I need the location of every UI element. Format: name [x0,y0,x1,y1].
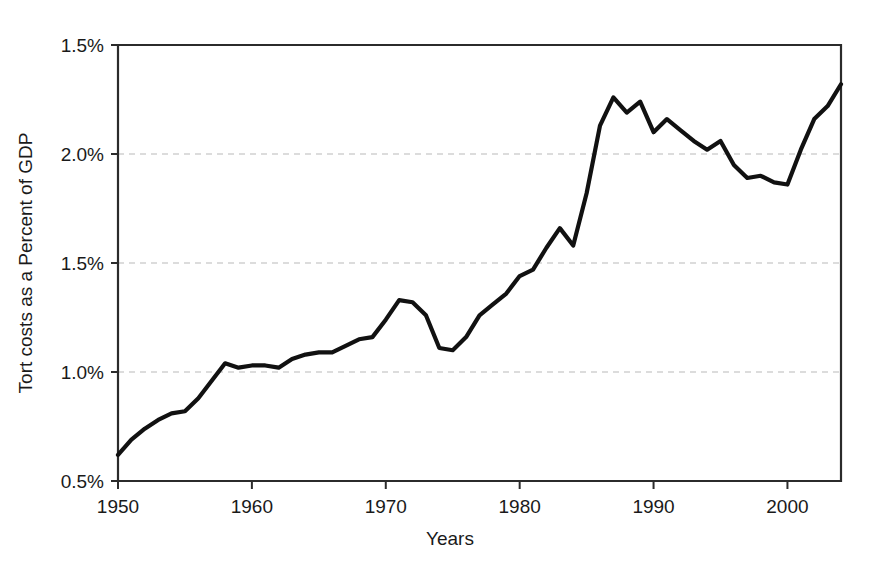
chart-canvas: 0.5%1.0%1.5%2.0%1.5% 1950196019701980199… [0,0,881,571]
x-tick-label: 1980 [499,496,541,517]
tort-costs-line [118,84,841,455]
y-tick-label: 1.5% [61,35,104,56]
y-axis-title: Tort costs as a Percent of GDP [15,133,36,394]
x-tick-label: 1990 [632,496,674,517]
x-tick-label: 2000 [766,496,808,517]
y-tick-label: 2.0% [61,144,104,165]
x-tick-label: 1950 [97,496,139,517]
y-tick-label: 1.0% [61,362,104,383]
tort-costs-chart: 0.5%1.0%1.5%2.0%1.5% 1950196019701980199… [0,0,881,571]
gridlines [118,154,841,372]
y-tick-label: 1.5% [61,253,104,274]
plot-frame [118,45,841,481]
x-tick-label: 1970 [365,496,407,517]
y-tick-label: 0.5% [61,471,104,492]
x-tick-label: 1960 [231,496,273,517]
x-axis-title: Years [426,528,474,549]
x-axis-ticks [118,481,787,489]
x-axis-tick-labels: 195019601970198019902000 [97,496,809,517]
y-axis-tick-labels: 0.5%1.0%1.5%2.0%1.5% [61,35,104,492]
